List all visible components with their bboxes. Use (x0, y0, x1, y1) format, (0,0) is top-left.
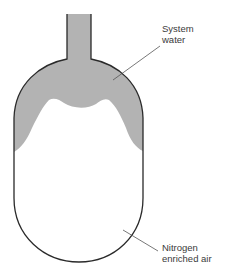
nitrogen-air-label: Nitrogen enriched air (162, 243, 212, 264)
nitrogen-air-label-line2: enriched air (162, 254, 212, 265)
system-water-label: System water (162, 24, 194, 45)
nitrogen-air-label-line1: Nitrogen (162, 243, 212, 254)
system-water-region (14, 14, 143, 152)
system-water-label-line1: System (162, 24, 194, 35)
system-water-leader (113, 46, 160, 80)
system-water-label-line2: water (162, 35, 194, 46)
